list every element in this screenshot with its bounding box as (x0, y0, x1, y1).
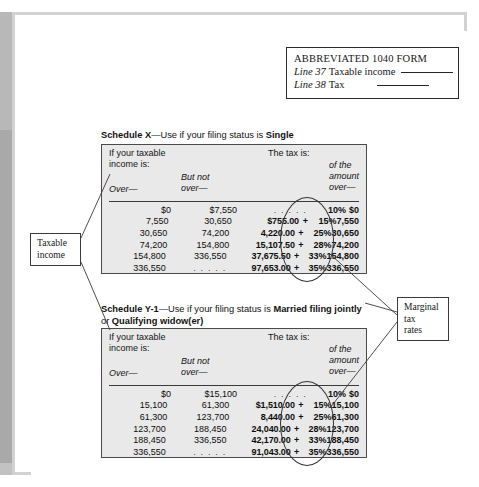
header-but-not-line1: But not (181, 172, 210, 183)
schedule-y1-table: If your taxable income is: The tax is: B… (101, 328, 367, 458)
cell-but_not_over: 74,200 (167, 228, 229, 238)
cell-base: . . . . . (237, 205, 307, 215)
table-row: 336,550. . . . .97,653.00+35%336,550 (102, 262, 366, 274)
form-1040-title: ABBREVIATED 1040 FORM (294, 52, 451, 65)
cell-plus: + (295, 240, 307, 250)
schedule-y1-caption-middle: —Use if your filing status is (159, 304, 274, 314)
abbreviated-1040-form-box: ABBREVIATED 1040 FORM Line 37 Taxable in… (286, 47, 459, 99)
cell-over: $0 (109, 389, 171, 399)
callout-marginal-line3: rates (404, 325, 442, 337)
header-if-taxable-income: If your taxable income is: (109, 148, 166, 170)
cell-plus: + (295, 400, 307, 410)
cell-plus: + (299, 216, 311, 226)
cell-base: $755.00 (232, 216, 299, 226)
cell-but_not_over: 123,700 (167, 412, 229, 422)
cell-pct: 15% (312, 216, 337, 226)
cell-over: 30,650 (109, 228, 167, 238)
header-of-the-line2: amount (329, 171, 359, 182)
schedule-y1-caption: Schedule Y-1—Use if your filing status i… (101, 304, 363, 327)
header-of-the-line3: over— (329, 366, 359, 377)
schedule-x-status: Single (266, 130, 294, 140)
cell-plus: + (291, 424, 303, 434)
cell-amount_over: 123,700 (326, 424, 359, 434)
header-but-not-line2: over— (181, 183, 210, 194)
header-if-taxable-line1: If your taxable (109, 332, 166, 343)
cell-amount_over: 15,100 (331, 400, 359, 410)
header-if-taxable-income: If your taxable income is: (109, 332, 166, 354)
cell-but_not_over: 336,550 (166, 435, 227, 445)
cell-over: 188,450 (109, 435, 166, 445)
header-of-the-line2: amount (329, 355, 359, 366)
cell-base: . . . . . (237, 389, 307, 399)
header-the-tax-is: The tax is: (268, 332, 310, 342)
cell-amount_over: $0 (346, 389, 359, 399)
cell-amount_over: 336,550 (326, 263, 359, 273)
cell-plus: + (291, 447, 303, 457)
table-row: 61,300123,7008,440.00+25%61,300 (102, 411, 366, 423)
cell-pct: 25% (307, 412, 331, 422)
header-divider (109, 385, 359, 386)
cell-amount_over: 154,800 (326, 251, 359, 261)
cell-amount_over: 30,650 (331, 228, 359, 238)
header-but-not-line1: But not (181, 356, 210, 367)
cell-plus: + (295, 412, 307, 422)
cell-but_not_over: . . . . . (166, 263, 227, 273)
cell-amount_over: 74,200 (331, 240, 359, 250)
cell-amount_over: 7,550 (336, 216, 359, 226)
header-over: Over— (109, 184, 138, 194)
cell-plus: + (291, 435, 303, 445)
form-1040-line-38: Line 38 Tax (294, 78, 451, 91)
header-the-tax-is: The tax is: (268, 148, 310, 158)
table-row: 188,450336,55042,170.00+33%188,450 (102, 434, 366, 446)
table-row: 74,200154,80015,107.50+28%74,200 (102, 239, 366, 251)
schedule-y1-status-2: Qualifying widow(er) (112, 316, 203, 326)
page-shadow-left-lower (0, 130, 12, 475)
cell-amount_over: $0 (346, 205, 359, 215)
cell-pct: 33% (303, 251, 327, 261)
cell-pct: 28% (307, 240, 331, 250)
cell-but_not_over: . . . . . (166, 447, 227, 457)
cell-pct: 35% (303, 447, 327, 457)
schedule-x-name: Schedule X (101, 130, 151, 140)
figure-canvas: ABBREVIATED 1040 FORM Line 37 Taxable in… (0, 0, 479, 487)
table-row: 123,700188,45024,040.00+28%123,700 (102, 423, 366, 435)
line-38-text: Tax (329, 78, 345, 91)
cell-over: 74,200 (109, 240, 167, 250)
table-row: 154,800336,55037,675.50+33%154,800 (102, 250, 366, 262)
form-1040-line-37: Line 37 Taxable income (294, 65, 451, 78)
callout-marginal-line1: Marginal (404, 302, 442, 314)
cell-amount_over: 61,300 (331, 412, 359, 422)
table-row: 7,55030,650$755.00+15%7,550 (102, 216, 366, 228)
schedule-x-table: If your taxable income is: The tax is: B… (101, 144, 367, 274)
header-of-the-amount-over: of the amount over— (329, 160, 359, 193)
cell-but_not_over: $15,100 (171, 389, 237, 399)
schedule-x-caption-middle: —Use if your filing status is (151, 130, 266, 140)
cell-amount_over: 336,550 (326, 447, 359, 457)
cell-but_not_over: 61,300 (167, 400, 229, 410)
schedule-y1-caption-or: or (101, 316, 112, 326)
callout-marginal-tax-rates: Marginal tax rates (397, 297, 449, 341)
callout-taxable-income-line1: Taxable (37, 238, 74, 250)
schedule-y1-name: Schedule Y-1 (101, 304, 159, 314)
schedule-x-rows: $0$7,550. . . . .10%$07,55030,650$755.00… (102, 204, 366, 274)
header-if-taxable-line1: If your taxable (109, 148, 166, 159)
cell-but_not_over: 336,550 (166, 251, 227, 261)
line-37-text: Taxable income (329, 65, 396, 78)
cell-over: 123,700 (109, 424, 166, 434)
schedule-x-table-head: If your taxable income is: The tax is: B… (102, 145, 366, 202)
cell-base: 24,040.00 (226, 424, 290, 434)
table-row: $0$15,100. . . . .10%$0 (102, 388, 366, 400)
header-of-the-amount-over: of the amount over— (329, 344, 359, 377)
schedule-y1-status: Married filing jointly (273, 304, 361, 314)
header-over: Over— (109, 368, 138, 378)
callout-taxable-income-line2: income (37, 250, 74, 262)
line-38-blank-rule (377, 85, 429, 86)
header-but-not-line2: over— (181, 367, 210, 378)
cell-but_not_over: 154,800 (167, 240, 229, 250)
cell-over: 61,300 (109, 412, 167, 422)
cell-over: 15,100 (109, 400, 167, 410)
header-but-not-over: But not over— (181, 172, 210, 194)
cell-pct: 10% (320, 389, 346, 399)
cell-over: 336,550 (109, 263, 166, 273)
schedule-x-caption: Schedule X—Use if your filing status is … (101, 130, 381, 142)
